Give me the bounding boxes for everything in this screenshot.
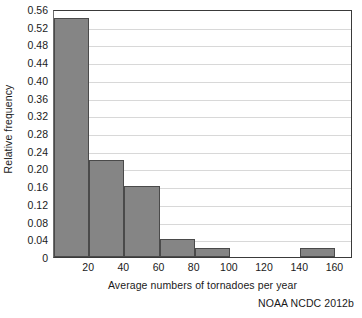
x-axis-tick-label: 60 [139,261,179,274]
y-axis-tick-label: 0.12 [12,200,48,210]
bar [300,248,335,257]
bar [54,18,89,257]
y-axis-tick-label: 0.04 [12,235,48,245]
y-axis-tick-label: 0.16 [12,182,48,192]
bar-series [54,11,351,257]
y-axis-tick-label: 0.40 [12,76,48,86]
x-axis-tick-label: 120 [244,261,284,274]
bar [195,248,230,257]
x-axis-tick-label: 20 [68,261,108,274]
x-axis-tick-labels: 20406080100120140160 [53,261,352,277]
x-axis-tick-label: 100 [209,261,249,274]
plot-area [53,10,352,258]
y-axis-tick-label: 0.52 [12,23,48,33]
y-axis-tick-label: 0.28 [12,129,48,139]
x-axis-tick-label: 80 [174,261,214,274]
y-axis-tick-label: 0.32 [12,111,48,121]
bar [89,160,124,257]
histogram-figure: Relative frequency 00.040.080.120.160.20… [0,0,362,318]
y-axis-tick-label: 0.08 [12,218,48,228]
y-axis-tick-label: 0 [12,253,48,263]
source-credit: NOAA NCDC 2012b [258,297,354,309]
y-axis-tick-label: 0.24 [12,147,48,157]
y-axis-tick-labels: 00.040.080.120.160.200.240.280.320.360.4… [14,10,50,258]
y-axis-tick-label: 0.36 [12,94,48,104]
bar [124,186,159,257]
y-axis-tick-label: 0.56 [12,5,48,15]
bar [160,239,195,257]
x-axis-tick-label: 40 [103,261,143,274]
x-axis-tick-label: 160 [314,261,354,274]
y-axis-tick-label: 0.48 [12,40,48,50]
y-axis-tick-label: 0.44 [12,58,48,68]
x-axis-title: Average numbers of tornadoes per year [53,279,352,291]
y-axis-tick-label: 0.20 [12,164,48,174]
x-axis-tick-label: 140 [279,261,319,274]
